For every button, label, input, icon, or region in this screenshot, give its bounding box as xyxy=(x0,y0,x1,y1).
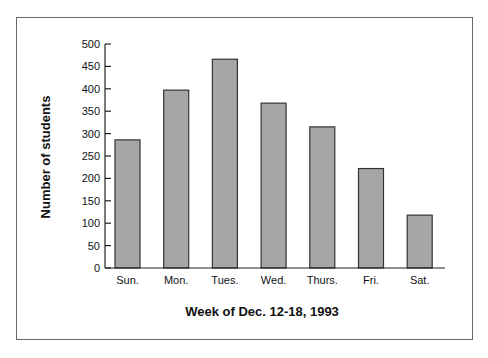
x-tick-label: Fri. xyxy=(363,274,379,286)
y-tick-label: 500 xyxy=(82,38,100,50)
y-tick-label: 150 xyxy=(82,195,100,207)
bar-thurs xyxy=(310,127,335,268)
y-axis-title: Number of students xyxy=(38,96,53,219)
bar-sat xyxy=(407,215,432,268)
y-tick-label: 0 xyxy=(94,262,100,274)
y-tick-label: 50 xyxy=(88,240,100,252)
bar-chart: 050100150200250300350400450500 Sun.Mon.T… xyxy=(0,0,488,358)
x-tick-label: Sun. xyxy=(116,274,139,286)
x-tick-label: Sat. xyxy=(410,274,430,286)
y-tick-label: 450 xyxy=(82,60,100,72)
x-tick-label: Tues. xyxy=(211,274,238,286)
bar-tues xyxy=(212,59,237,268)
y-tick-label: 350 xyxy=(82,105,100,117)
y-tick-label: 250 xyxy=(82,150,100,162)
bar-fri xyxy=(359,169,384,268)
x-tick-label: Thurs. xyxy=(307,274,338,286)
bar-mon xyxy=(164,90,189,268)
x-axis: Sun.Mon.Tues.Wed.Thurs.Fri.Sat. xyxy=(105,268,445,286)
bar-sun xyxy=(115,140,140,268)
x-tick-label: Wed. xyxy=(261,274,286,286)
bars xyxy=(115,59,432,268)
y-tick-label: 300 xyxy=(82,128,100,140)
y-axis: 050100150200250300350400450500 xyxy=(82,38,111,274)
y-tick-label: 100 xyxy=(82,217,100,229)
y-tick-label: 400 xyxy=(82,83,100,95)
x-tick-label: Mon. xyxy=(164,274,188,286)
y-tick-label: 200 xyxy=(82,172,100,184)
bar-wed xyxy=(261,103,286,268)
x-axis-title: Week of Dec. 12-18, 1993 xyxy=(185,304,339,319)
